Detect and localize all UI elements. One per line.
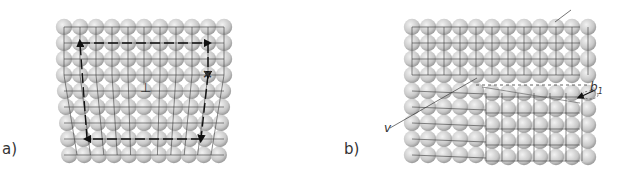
burgers-vector-label: b1 [590,80,603,96]
edge-dislocation-lattice [0,0,309,176]
panel-b-label: b) [344,140,359,158]
dislocation-symbol-icon: ⊥ [140,80,151,95]
circuit-start-mark-icon: × [202,66,213,81]
panel-a-label: a) [2,140,17,158]
panel-b-screw-dislocation: b) v b1 [309,0,618,176]
panel-a-edge-dislocation: a) ⊥ × [0,0,309,176]
dislocation-line-label: v [384,121,391,135]
